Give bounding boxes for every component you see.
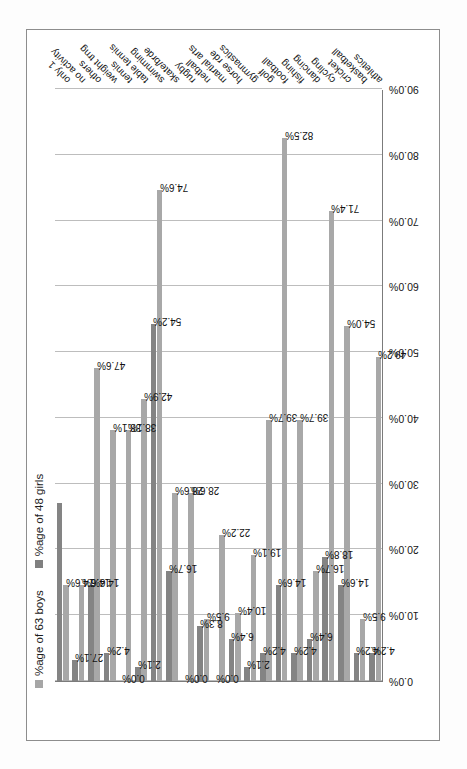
bar-value-label: 39.7%: [300, 411, 328, 422]
bar-value-label: 4.2%: [107, 645, 130, 656]
bar-value-label: 74.6%: [160, 182, 188, 193]
bar-value-label: 10.4%: [238, 604, 266, 615]
bar-value-label: 14.6%: [341, 576, 369, 587]
bar-boys: [313, 571, 319, 681]
bar-boys: [63, 585, 69, 681]
bar-value-label: 0.0%: [185, 673, 208, 684]
value-axis-tick: 60.0%: [389, 281, 419, 293]
bar-boys: [344, 326, 350, 681]
bar-girls: [104, 653, 110, 681]
bar-boys: [188, 493, 194, 681]
bar-value-label: 0.0%: [216, 673, 239, 684]
bar-girls: [151, 325, 157, 682]
bar-value-label: 0.0%: [122, 673, 145, 684]
bar-boys: [157, 190, 163, 681]
value-axis-tick: 10.0%: [389, 610, 419, 622]
bar-value-label: 19.1%: [253, 547, 281, 558]
bar-boys: [297, 420, 303, 681]
bar-girls: [166, 571, 172, 681]
value-axis-tick: 80.0%: [389, 150, 419, 162]
bar-value-label: 9.5%: [207, 610, 230, 621]
legend-label-girls: %age of 48 girls: [33, 474, 45, 556]
bar-value-label: 2.1%: [247, 659, 270, 670]
bar-boys: [94, 368, 100, 681]
bar-boys: [219, 535, 225, 681]
bar-value-label: 47.6%: [97, 359, 125, 370]
scanned-page: %age of 63 boys %age of 48 girls 4.2%49.…: [0, 0, 467, 769]
bar-value-label: 6.4%: [231, 630, 254, 641]
legend-swatch-girls-icon: [35, 560, 43, 568]
value-axis-tick: 40.0%: [389, 413, 419, 425]
bar-value-label: 42.9%: [144, 390, 172, 401]
bar-value-label: 54.0%: [347, 317, 375, 328]
legend-item-girls: %age of 48 girls: [33, 474, 45, 568]
bar-value-label: 16.7%: [169, 563, 197, 574]
bar-girls: [57, 503, 63, 681]
bar-boys: [329, 211, 335, 681]
bar-chart: %age of 63 boys %age of 48 girls 4.2%49.…: [27, 30, 439, 740]
bar-value-label: 16.7%: [316, 563, 344, 574]
value-axis-labels: [27, 682, 355, 740]
gridline: [55, 154, 382, 155]
value-axis-tick: 90.0%: [389, 84, 419, 96]
bar-boys: [79, 585, 85, 681]
bar-boys: [172, 493, 178, 681]
value-axis-tick: 50.0%: [389, 347, 419, 359]
bar-value-label: 14.6%: [66, 576, 94, 587]
bar-value-label: 71.4%: [331, 203, 359, 214]
bar-value-label: 38.1%: [113, 422, 141, 433]
bar-value-label: 2.1%: [138, 659, 161, 670]
bar-boys: [282, 138, 288, 681]
plot-area: 4.2%49.2%4.2%9.5%14.6%54.0%18.8%71.4%6.4…: [55, 90, 383, 682]
bar-boys: [235, 613, 241, 681]
bar-girls: [354, 653, 360, 681]
bar-value-label: 18.8%: [325, 549, 353, 560]
chart-legend: %age of 63 boys %age of 48 girls: [33, 474, 45, 688]
value-axis-tick: 20.0%: [389, 544, 419, 556]
bar-girls: [322, 557, 328, 681]
bar-boys: [141, 399, 147, 681]
legend-label-boys: %age of 63 boys: [33, 590, 45, 676]
bar-value-label: 4.2%: [263, 645, 286, 656]
value-axis-tick: 30.0%: [389, 479, 419, 491]
bar-value-label: 9.5%: [363, 610, 386, 621]
bar-value-label: 14.6%: [278, 576, 306, 587]
bar-value-label: 39.7%: [269, 411, 297, 422]
category-axis-labels: [384, 148, 436, 740]
bar-value-label: 4.2%: [294, 645, 317, 656]
bar-girls: [369, 653, 375, 681]
bar-value-label: 6.4%: [310, 630, 333, 641]
bar-value-label: 27.1%: [75, 651, 103, 662]
value-axis-tick: 70.0%: [389, 216, 419, 228]
bar-girls: [88, 585, 94, 681]
bar-girls: [276, 585, 282, 681]
value-axis-tick: 0.0%: [389, 676, 413, 688]
bar-girls: [291, 653, 297, 681]
bar-boys: [110, 430, 116, 681]
bar-boys: [376, 357, 382, 681]
bar-value-label: 54.2%: [153, 316, 181, 327]
bar-girls: [72, 660, 78, 681]
bar-value-label: 22.2%: [222, 526, 250, 537]
bar-value-label: 82.5%: [285, 130, 313, 141]
rotated-chart-wrapper: %age of 63 boys %age of 48 girls 4.2%49.…: [27, 30, 439, 740]
legend-item-boys: %age of 63 boys: [33, 590, 45, 688]
gridline: [55, 88, 382, 89]
bar-value-label: 4.2%: [356, 645, 379, 656]
bar-girls: [338, 585, 344, 681]
bar-boys: [126, 430, 132, 681]
bar-value-label: 28.6%: [175, 484, 203, 495]
